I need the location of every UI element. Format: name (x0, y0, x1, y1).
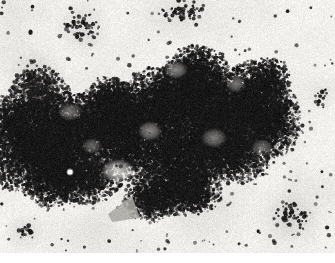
electron-micrograph-image (0, 0, 335, 263)
micrograph-figure (0, 0, 335, 263)
